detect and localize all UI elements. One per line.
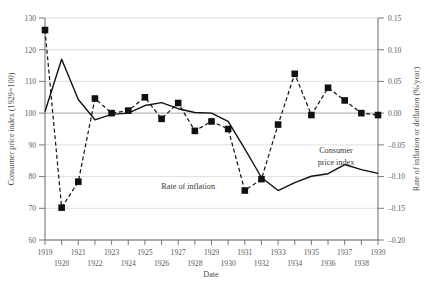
x-ticklabel: 1930 (221, 259, 236, 268)
data-point-marker (341, 97, 348, 104)
x-ticklabel: 1932 (254, 259, 269, 268)
x-ticklabel: 1926 (154, 259, 169, 268)
right-ticklabel: –0.10 (387, 172, 405, 181)
left-ticklabel: 130 (25, 14, 37, 23)
series-line-consumer-price-index (45, 59, 378, 190)
x-ticklabel: 1927 (171, 248, 186, 257)
data-point-marker (42, 27, 49, 34)
y2-axis-label: Rate of inflation or deflation (%/year) (412, 67, 421, 192)
data-point-marker (291, 71, 298, 78)
data-point-marker (208, 118, 215, 125)
data-point-marker (175, 100, 182, 107)
annotation-consumer-price-index-line1: Consumer (319, 146, 353, 155)
axis-spines (45, 18, 378, 240)
y-axis-label: Consumer price index (1929=100) (7, 72, 16, 185)
data-point-marker (92, 95, 99, 102)
data-point-marker (142, 94, 149, 101)
data-point-marker (125, 107, 132, 114)
left-ticklabel: 70 (28, 204, 36, 213)
x-ticklabel: 1934 (287, 259, 302, 268)
right-ticklabel: 0.05 (388, 77, 401, 86)
left-ticklabel: 100 (25, 109, 37, 118)
x-ticklabel: 1938 (354, 259, 369, 268)
x-ticklabel: 1937 (337, 248, 352, 257)
x-ticklabel: 1936 (320, 259, 335, 268)
x-axis-ticks (45, 240, 378, 245)
left-ticklabel: 60 (28, 236, 36, 245)
x-ticklabel: 1921 (71, 248, 86, 257)
right-axis-ticklabels: 0.15 0.10 0.05 0.00 –0.05 –0.10 –0.15 –0… (387, 14, 405, 245)
annotation-rate-of-inflation: Rate of inflation (161, 182, 215, 191)
right-ticklabel: 0.00 (388, 109, 401, 118)
x-ticklabel: 1922 (87, 259, 102, 268)
data-point-marker (358, 110, 365, 117)
data-point-marker (242, 187, 249, 194)
x-ticklabel: 1924 (121, 259, 136, 268)
gridlines (45, 18, 378, 240)
x-ticklabel: 1919 (37, 248, 52, 257)
x-ticklabel: 1929 (204, 248, 219, 257)
x-axis-label: Date (203, 270, 219, 279)
data-point-marker (192, 128, 199, 135)
right-axis-ticks (378, 18, 384, 240)
data-point-marker (258, 176, 265, 183)
data-point-marker (108, 110, 115, 117)
data-point-marker (225, 126, 232, 133)
data-point-marker (58, 204, 65, 211)
data-point-marker (275, 121, 282, 128)
right-ticklabel: –0.20 (387, 236, 405, 245)
right-ticklabel: 0.15 (388, 14, 401, 23)
x-axis-ticklabels: 1919192019211922192319241925192619271928… (37, 248, 385, 268)
x-ticklabel: 1933 (271, 248, 286, 257)
x-ticklabel: 1931 (237, 248, 252, 257)
chart-figure: 130 120 110 100 90 80 70 60 Consumer pri… (0, 0, 431, 294)
right-ticklabel: 0.10 (388, 46, 401, 55)
x-ticklabel: 1920 (54, 259, 69, 268)
x-ticklabel: 1939 (370, 248, 385, 257)
left-ticklabel: 90 (28, 141, 36, 150)
data-point-marker (308, 112, 315, 119)
x-ticklabel: 1928 (187, 259, 202, 268)
left-ticklabel: 80 (28, 172, 36, 181)
right-ticklabel: –0.15 (387, 204, 405, 213)
data-point-marker (158, 116, 165, 123)
x-ticklabel: 1935 (304, 248, 319, 257)
data-point-marker (375, 112, 382, 119)
left-axis-ticklabels: 130 120 110 100 90 80 70 60 (25, 14, 37, 245)
right-ticklabel: –0.05 (387, 141, 405, 150)
left-ticklabel: 120 (25, 46, 37, 55)
left-axis-ticks (39, 18, 45, 240)
annotation-consumer-price-index-line2: price index (318, 158, 355, 167)
left-ticklabel: 110 (25, 77, 36, 86)
data-point-marker (75, 178, 82, 185)
x-ticklabel: 1925 (137, 248, 152, 257)
chart-svg: 130 120 110 100 90 80 70 60 Consumer pri… (0, 0, 431, 294)
data-point-marker (325, 84, 332, 91)
x-ticklabel: 1923 (104, 248, 119, 257)
